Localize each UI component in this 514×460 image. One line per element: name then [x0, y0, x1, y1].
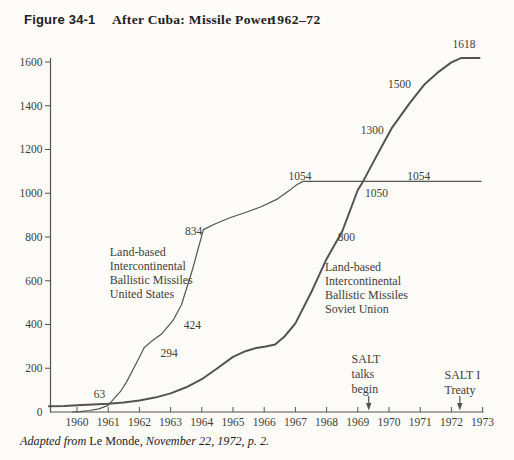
x-tick-label: 1963 — [159, 416, 182, 428]
us-series-note-line: United States — [110, 287, 175, 301]
caption-adapted: Adapted from — [20, 434, 89, 448]
x-tick-label: 1973 — [471, 416, 494, 428]
source-caption: Adapted from Le Monde, November 22, 1972… — [20, 434, 269, 449]
value-label: 1050 — [365, 187, 388, 199]
value-label: 1618 — [452, 38, 475, 50]
x-tick-label: 1964 — [190, 416, 213, 428]
caption-source: Le Monde, — [89, 434, 142, 448]
value-label: 834 — [185, 225, 203, 237]
caption-rest: November 22, 1972, p. 2. — [143, 434, 269, 448]
x-tick-label: 1960 — [66, 416, 89, 428]
value-label: 1054 — [407, 170, 430, 182]
us-series-note-line: Ballistic Missiles — [110, 273, 193, 287]
event-text-line: begin — [352, 382, 379, 396]
y-tick-label: 400 — [25, 318, 43, 330]
ussr-series-note-line: Intercontinental — [325, 274, 402, 288]
value-label: 1500 — [388, 78, 411, 90]
ussr-series-note-line: Soviet Union — [325, 302, 389, 316]
value-label: 800 — [338, 231, 356, 243]
y-tick-label: 600 — [25, 275, 43, 287]
event-arrow-head — [366, 403, 371, 411]
event-text-line: talks — [352, 367, 375, 381]
value-label: 1054 — [289, 170, 312, 182]
us-series-note-line: Intercontinental — [110, 259, 187, 273]
x-tick-label: 1970 — [378, 416, 401, 428]
x-tick-label: 1965 — [222, 416, 245, 428]
value-label: 424 — [184, 319, 202, 331]
x-tick-label: 1967 — [284, 416, 307, 428]
y-tick-label: 800 — [25, 231, 43, 243]
y-tick-label: 200 — [25, 362, 43, 374]
figure-page: Figure 34-1 After Cuba: Missile Power 19… — [0, 0, 514, 460]
y-tick-label: 0 — [37, 406, 43, 418]
y-tick-label: 1400 — [20, 100, 43, 112]
y-tick-label: 1000 — [20, 187, 43, 199]
value-label: 1300 — [361, 124, 384, 136]
x-tick-label: 1968 — [315, 416, 338, 428]
value-label: 63 — [94, 388, 106, 400]
value-label: 294 — [160, 347, 178, 359]
x-tick-label: 1972 — [440, 416, 463, 428]
y-tick-label: 1600 — [20, 56, 43, 68]
event-text-line: SALT I — [445, 368, 481, 382]
ussr-series-line — [49, 58, 480, 406]
x-tick-label: 1961 — [97, 416, 120, 428]
ussr-series-note-line: Land-based — [325, 260, 381, 274]
x-tick-label: 1971 — [409, 416, 432, 428]
event-text-line: Treaty — [445, 383, 476, 397]
y-tick-label: 1200 — [20, 143, 43, 155]
missile-power-chart: 0200400600800100012001400160019601961196… — [0, 0, 514, 460]
event-arrow-head — [457, 403, 462, 411]
event-text-line: SALT — [352, 352, 382, 366]
x-tick-label: 1969 — [346, 416, 369, 428]
x-tick-label: 1962 — [128, 416, 151, 428]
us-series-note-line: Land-based — [110, 245, 166, 259]
x-tick-label: 1966 — [253, 416, 276, 428]
ussr-series-note-line: Ballistic Missiles — [325, 288, 408, 302]
